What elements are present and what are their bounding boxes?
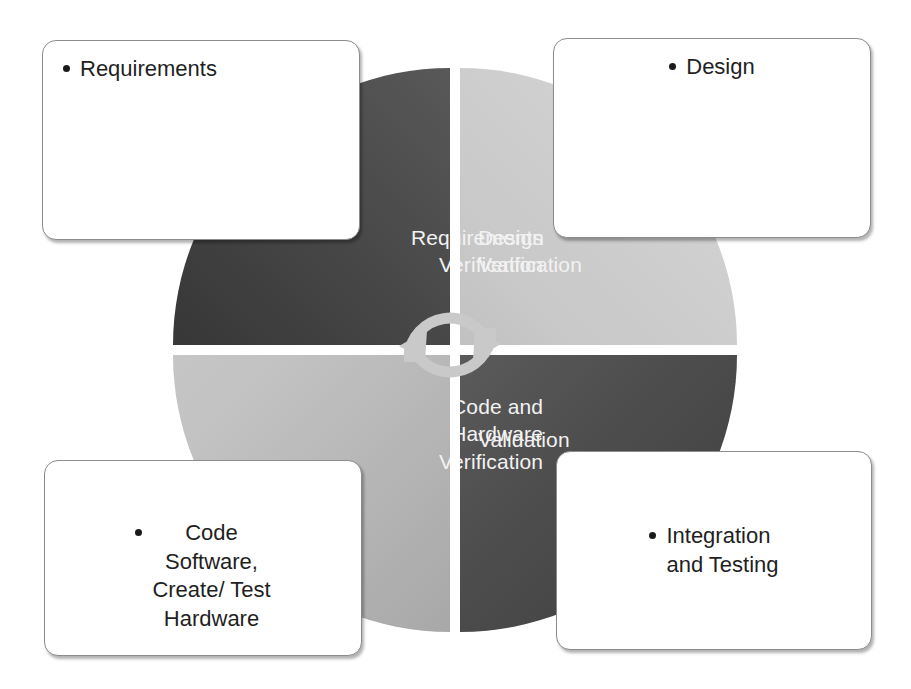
callout-requirements[interactable]: Requirements [42, 40, 360, 240]
callout-label-requirements: Requirements [80, 55, 217, 84]
callout-content: Integration and Testing [649, 452, 778, 579]
quadrant-label-validation: Validation [478, 426, 678, 453]
bullet-icon [669, 63, 676, 70]
callout-label-code-software-create-test-hardware: Code Software, Create/ Test Hardware [152, 519, 270, 633]
callout-content: Design [669, 39, 754, 82]
callout-label-design: Design [686, 53, 754, 82]
callout-design[interactable]: Design [553, 38, 871, 238]
bullet-icon [63, 65, 70, 72]
callout-content: Requirements [43, 41, 359, 84]
diagram-canvas: Requirements Verification Design Verific… [0, 0, 911, 689]
bullet-icon [135, 529, 142, 536]
callout-integration-and-testing[interactable]: Integration and Testing [556, 451, 872, 650]
bullet-icon [649, 532, 656, 539]
callout-code-software-create-test-hardware[interactable]: Code Software, Create/ Test Hardware [44, 460, 362, 656]
callout-label-integration-and-testing: Integration and Testing [666, 522, 778, 579]
cycle-arrows-icon [393, 288, 507, 402]
callout-content: Code Software, Create/ Test Hardware [135, 461, 270, 633]
